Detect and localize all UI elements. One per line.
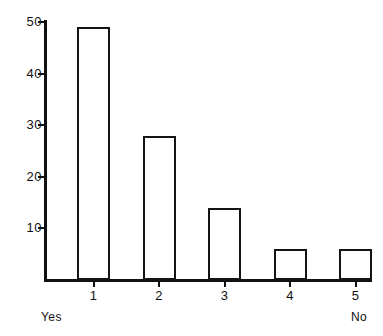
x-axis-tick-label: 2 (144, 289, 174, 303)
y-axis-tick-label: 40 (2, 67, 42, 80)
bar (339, 249, 372, 280)
bar (143, 136, 176, 280)
bar (77, 27, 110, 280)
y-axis-tick-label: 30 (2, 118, 42, 131)
y-axis-tick-label: 20 (2, 170, 42, 183)
x-axis-tick (289, 280, 291, 287)
bar (274, 249, 307, 280)
bar-chart: 1020304050 12345 Yes No (0, 0, 383, 336)
plot-area: 1020304050 12345 Yes No (0, 0, 383, 336)
scale-endpoint-left: Yes (41, 311, 62, 324)
bar (208, 208, 241, 280)
x-axis-tick-label: 3 (210, 289, 240, 303)
scale-endpoint-right: No (351, 311, 367, 324)
y-axis-tick-label: 50 (2, 15, 42, 28)
x-axis-tick-label: 1 (79, 289, 109, 303)
y-axis-tick-label: 10 (2, 221, 42, 234)
x-axis-tick-label: 5 (341, 289, 371, 303)
x-axis-tick (355, 280, 357, 287)
x-axis-tick-label: 4 (275, 289, 305, 303)
x-axis-tick (93, 280, 95, 287)
x-axis-tick (158, 280, 160, 287)
x-axis-tick (224, 280, 226, 287)
y-axis-line (44, 20, 47, 282)
